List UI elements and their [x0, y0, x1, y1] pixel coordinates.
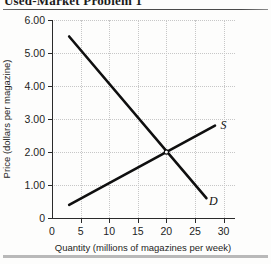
x-tick-label: 0 — [49, 225, 55, 237]
page-title: Used-Market Problem 1 — [4, 0, 142, 9]
y-tick-label: 1.00 — [25, 179, 45, 191]
x-tick-mark — [138, 218, 139, 223]
x-tick-mark — [195, 218, 196, 223]
x-tick-label: 10 — [103, 225, 115, 237]
y-tick-label: 4.00 — [25, 80, 45, 92]
y-tick-label: 5.00 — [25, 47, 45, 59]
curve-d — [69, 37, 206, 199]
footer-rule — [3, 255, 268, 258]
y-tick-label: 2.00 — [25, 146, 45, 158]
x-axis-title: Quantity (millions of magazines per week… — [55, 242, 231, 253]
y-tick-mark — [48, 218, 53, 219]
curve-s — [69, 126, 215, 205]
chart-plot-area: 01.002.003.004.005.006.00 051015202530 D… — [52, 20, 235, 218]
x-axis-line — [52, 218, 235, 219]
x-tick-label: 20 — [161, 225, 173, 237]
y-tick-label: 6.00 — [25, 14, 45, 26]
x-tick-mark — [166, 218, 167, 223]
y-tick-label: 0 — [39, 212, 45, 224]
y-tick-label: 3.00 — [25, 113, 45, 125]
curves-layer — [52, 20, 235, 218]
x-tick-label: 30 — [218, 225, 230, 237]
x-tick-label: 25 — [189, 225, 201, 237]
curve-label-s: S — [221, 117, 227, 132]
x-tick-label: 5 — [78, 225, 84, 237]
x-tick-mark — [81, 218, 82, 223]
header-rule — [3, 9, 268, 10]
x-tick-mark — [224, 218, 225, 223]
x-tick-mark — [109, 218, 110, 223]
y-axis-title: Price (dollars per magazine) — [1, 60, 12, 179]
x-tick-label: 15 — [132, 225, 144, 237]
figure-root: Used-Market Problem 1 01.002.003.004.005… — [0, 0, 271, 264]
equilibrium-point — [164, 150, 168, 154]
page-title-clip: Used-Market Problem 1 — [0, 0, 271, 9]
curve-label-d: D — [209, 193, 218, 208]
